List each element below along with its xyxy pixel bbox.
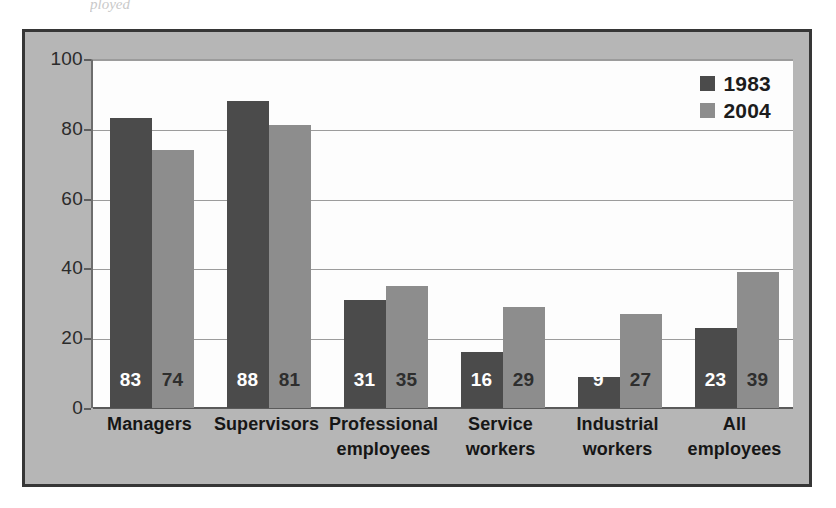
y-axis-label-40: 40 — [31, 257, 83, 279]
bar-value-label: 83 — [110, 369, 152, 391]
bar-value-label: 31 — [344, 369, 386, 391]
bar-group: 1629 — [461, 60, 545, 408]
category-label-line: Managers — [85, 412, 214, 437]
chart-legend: 19832004 — [700, 70, 771, 124]
y-tick-mark-20 — [84, 338, 91, 340]
category-label: Supervisors — [202, 412, 331, 437]
legend-item-2004[interactable]: 2004 — [700, 97, 771, 124]
bar-value-label: 9 — [578, 369, 620, 391]
bar-2004[interactable]: 27 — [620, 314, 662, 408]
bar-2004[interactable]: 35 — [386, 286, 428, 408]
y-axis-label-20: 20 — [31, 327, 83, 349]
bar-1983[interactable]: 31 — [344, 300, 386, 408]
y-axis-label-80: 80 — [31, 118, 83, 140]
bars-layer: 83748881313516299272339 — [93, 60, 793, 408]
category-label: Serviceworkers — [436, 412, 565, 462]
legend-item-1983[interactable]: 1983 — [700, 70, 771, 97]
bar-value-label: 29 — [503, 369, 545, 391]
legend-swatch-icon — [700, 76, 715, 91]
category-label: Managers — [85, 412, 214, 437]
bar-value-label: 81 — [269, 369, 311, 391]
bar-2004[interactable]: 81 — [269, 125, 311, 408]
bar-value-label: 74 — [152, 369, 194, 391]
legend-label: 1983 — [723, 72, 771, 96]
y-tick-mark-0 — [84, 408, 91, 410]
y-axis-label-100: 100 — [31, 48, 83, 70]
bar-value-label: 16 — [461, 369, 503, 391]
y-axis-label-60: 60 — [31, 188, 83, 210]
bar-value-label: 27 — [620, 369, 662, 391]
category-label-line: employees — [670, 437, 799, 462]
category-label-line: Supervisors — [202, 412, 331, 437]
category-label-line: workers — [436, 437, 565, 462]
bar-1983[interactable]: 88 — [227, 101, 269, 408]
category-label: Industrialworkers — [553, 412, 682, 462]
bar-2004[interactable]: 29 — [503, 307, 545, 408]
legend-swatch-icon — [700, 103, 715, 118]
bar-group: 8374 — [110, 60, 194, 408]
bar-value-label: 39 — [737, 369, 779, 391]
category-label-line: workers — [553, 437, 682, 462]
bar-group: 927 — [578, 60, 662, 408]
category-label: Allemployees — [670, 412, 799, 462]
category-label-line: employees — [319, 437, 448, 462]
bar-1983[interactable]: 23 — [695, 328, 737, 408]
bar-value-label: 88 — [227, 369, 269, 391]
category-axis-labels: ManagersSupervisorsProfessionalemployees… — [91, 412, 793, 488]
category-label-line: Service — [436, 412, 565, 437]
bar-value-label: 35 — [386, 369, 428, 391]
bar-1983[interactable]: 83 — [110, 118, 152, 408]
plot-area: 83748881313516299272339 19832004 — [91, 59, 793, 408]
bar-1983[interactable]: 9 — [578, 377, 620, 408]
bar-group: 8881 — [227, 60, 311, 408]
bar-2004[interactable]: 39 — [737, 272, 779, 408]
category-label: Professionalemployees — [319, 412, 448, 462]
scan-artifact-text: ployed — [90, 0, 290, 12]
bar-1983[interactable]: 16 — [461, 352, 503, 408]
bar-value-label: 23 — [695, 369, 737, 391]
y-tick-mark-60 — [84, 199, 91, 201]
chart-frame: 020406080100 83748881313516299272339 198… — [22, 29, 812, 487]
y-tick-mark-40 — [84, 268, 91, 270]
category-label-line: Industrial — [553, 412, 682, 437]
y-tick-mark-100 — [84, 59, 91, 61]
y-tick-mark-80 — [84, 129, 91, 131]
bar-2004[interactable]: 74 — [152, 150, 194, 408]
category-label-line: Professional — [319, 412, 448, 437]
legend-label: 2004 — [723, 99, 771, 123]
category-label-line: All — [670, 412, 799, 437]
y-axis-label-0: 0 — [31, 397, 83, 419]
bar-group: 3135 — [344, 60, 428, 408]
